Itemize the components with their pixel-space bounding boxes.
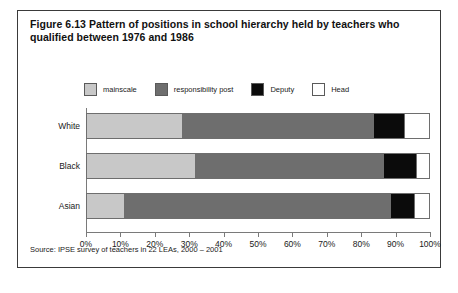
bar-segment-head xyxy=(417,154,429,178)
bar-segment-mainscale xyxy=(87,114,183,138)
legend-item-responsibility-post: responsibility post xyxy=(155,83,234,96)
x-axis-tick xyxy=(86,232,87,237)
legend-item-head: Head xyxy=(312,83,349,96)
legend-swatch-head xyxy=(312,83,325,96)
x-axis-tick xyxy=(292,232,293,237)
x-axis-tick-label: 40% xyxy=(215,239,232,249)
plot-area xyxy=(86,108,430,230)
x-axis-tick xyxy=(189,232,190,237)
bar-segment-responsibility-post xyxy=(183,114,374,138)
bar-segment-responsibility-post xyxy=(196,154,383,178)
legend-label: mainscale xyxy=(103,85,137,94)
chart-legend: mainscaleresponsibility postDeputyHead xyxy=(84,83,367,96)
x-axis-tick xyxy=(361,232,362,237)
bar-segment-responsibility-post xyxy=(125,194,390,218)
legend-label: Head xyxy=(331,85,349,94)
x-axis-tick xyxy=(396,232,397,237)
x-axis-tick-label: 60% xyxy=(284,239,301,249)
x-axis-tick-label: 0% xyxy=(80,239,92,249)
legend-label: responsibility post xyxy=(174,85,234,94)
bar-row xyxy=(86,113,430,139)
bar-segment-head xyxy=(405,114,429,138)
x-axis-tick-label: 30% xyxy=(181,239,198,249)
x-axis-tick-label: 70% xyxy=(318,239,335,249)
bar-segment-deputy xyxy=(374,114,406,138)
category-label-white: White xyxy=(32,121,80,131)
x-axis-tick-label: 100% xyxy=(419,239,441,249)
x-axis-tick xyxy=(155,232,156,237)
bar-segment-deputy xyxy=(391,194,416,218)
legend-item-deputy: Deputy xyxy=(251,83,294,96)
legend-swatch-mainscale xyxy=(84,83,97,96)
category-label-black: Black xyxy=(32,161,80,171)
x-axis-tick-label: 10% xyxy=(112,239,129,249)
stacked-bar-white[interactable] xyxy=(86,113,430,139)
x-axis-tick-label: 20% xyxy=(146,239,163,249)
stacked-bar-asian[interactable] xyxy=(86,193,430,219)
legend-swatch-responsibility-post xyxy=(155,83,168,96)
figure-caption: Figure 6.13 Pattern of positions in scho… xyxy=(30,18,426,44)
category-label-asian: Asian xyxy=(32,201,80,211)
legend-item-mainscale: mainscale xyxy=(84,83,137,96)
x-axis-tick xyxy=(224,232,225,237)
bar-segment-head xyxy=(415,194,429,218)
x-axis-tick xyxy=(430,232,431,237)
bar-segment-mainscale xyxy=(87,154,196,178)
x-axis-tick-label: 80% xyxy=(353,239,370,249)
bar-segment-deputy xyxy=(384,154,417,178)
legend-label: Deputy xyxy=(270,85,294,94)
x-axis-tick xyxy=(258,232,259,237)
legend-swatch-deputy xyxy=(251,83,264,96)
x-axis-tick-label: 50% xyxy=(249,239,266,249)
stacked-bar-black[interactable] xyxy=(86,153,430,179)
bar-row xyxy=(86,153,430,179)
x-axis-tick-label: 90% xyxy=(387,239,404,249)
x-axis-tick xyxy=(120,232,121,237)
bar-row xyxy=(86,193,430,219)
bar-segment-mainscale xyxy=(87,194,125,218)
x-axis-tick xyxy=(327,232,328,237)
figure-container: Figure 6.13 Pattern of positions in scho… xyxy=(17,10,441,268)
